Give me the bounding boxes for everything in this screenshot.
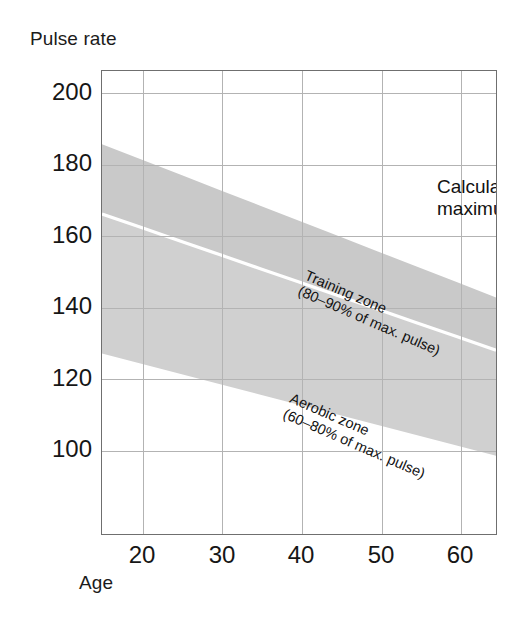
gridline-y-160 [102, 236, 496, 237]
y-axis-title: Pulse rate [30, 28, 117, 50]
x-tick-label-40: 40 [266, 541, 336, 569]
chart-figure: Pulse rate Age Calculated maximum pulse [0, 0, 523, 620]
annotation-max-line2: maximum pulse [437, 198, 497, 220]
annotation-max-line1: Calculated [437, 176, 497, 198]
gridline-y-140 [102, 308, 496, 309]
y-tick-label-160: 160 [22, 221, 92, 249]
y-tick-label-180: 180 [22, 149, 92, 177]
gridline-y-180 [102, 165, 496, 166]
gridline-y-100 [102, 451, 496, 452]
y-tick-label-140: 140 [22, 292, 92, 320]
y-tick-label-100: 100 [22, 435, 92, 463]
gridline-x-40 [302, 71, 303, 534]
x-tick-label-50: 50 [346, 541, 416, 569]
y-tick-label-120: 120 [22, 364, 92, 392]
x-axis-title: Age [79, 572, 113, 594]
gridline-y-120 [102, 379, 496, 380]
annotation-calculated-maximum-pulse: Calculated maximum pulse [437, 176, 497, 220]
gridline-x-20 [143, 71, 144, 534]
x-tick-label-30: 30 [187, 541, 257, 569]
y-tick-label-200: 200 [22, 78, 92, 106]
x-tick-label-60: 60 [425, 541, 495, 569]
x-tick-label-20: 20 [107, 541, 177, 569]
plot-area: Calculated maximum pulse Training zone (… [101, 70, 497, 535]
gridline-y-200 [102, 93, 496, 94]
gridline-x-30 [222, 71, 223, 534]
gridline-x-60 [461, 71, 462, 534]
zone-bands [102, 71, 496, 534]
